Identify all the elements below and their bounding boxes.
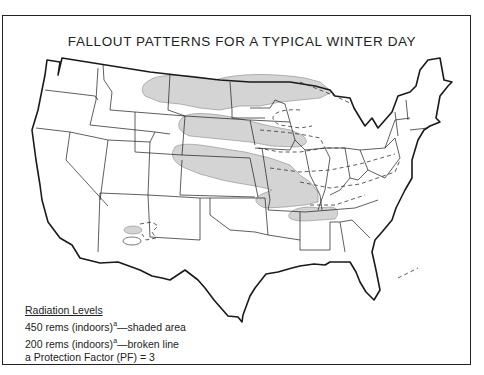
shaded-north-band [142, 75, 332, 111]
legend-heading: Radiation Levels [25, 303, 186, 317]
shaded-dakota-plume [179, 114, 307, 147]
dashed-se-coast [398, 268, 418, 278]
legend-footnote: a Protection Factor (PF) = 3 [25, 350, 186, 364]
legend-item-shaded: 450 rems (indoors)a—shaded area [25, 317, 186, 334]
legend-item-dashed: 200 rems (indoors)a—broken line [25, 334, 186, 351]
arizona-oval-bottom [123, 237, 141, 245]
shaded-central-band [172, 144, 318, 208]
legend: Radiation Levels 450 rems (indoors)a—sha… [25, 303, 186, 364]
dashed-wi-loop [273, 110, 312, 128]
dashed-ky-va-band [300, 160, 400, 188]
shaded-arizona-oval-top [124, 226, 142, 234]
shaded-tennessee-plume [289, 207, 338, 221]
